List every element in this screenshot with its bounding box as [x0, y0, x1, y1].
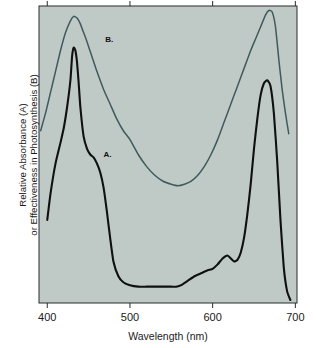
y-axis-title-line2: or Effectiveness in Photosynthesis (B): [28, 74, 39, 235]
x-tick-label-400: 400: [38, 311, 56, 323]
chart-figure: B. A. 400500600700 Wavelength (nm) Relat…: [0, 0, 316, 348]
plot-area-background: [39, 6, 297, 303]
x-tick-label-700: 700: [286, 311, 304, 323]
x-axis-title: Wavelength (nm): [128, 330, 208, 342]
curve-label-a: A.: [104, 150, 112, 159]
curve-label-b: B.: [105, 35, 113, 44]
spectrum-chart: B. A. 400500600700 Wavelength (nm) Relat…: [0, 0, 316, 348]
x-axis-tick-labels: 400500600700: [38, 311, 304, 323]
x-tick-label-500: 500: [121, 311, 139, 323]
x-tick-label-600: 600: [203, 311, 221, 323]
y-axis-title-line1: Relative Absorbance (A): [17, 103, 28, 206]
